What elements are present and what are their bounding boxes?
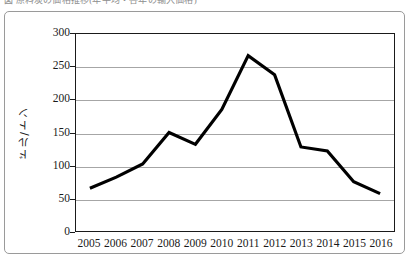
x-axis-tick-label: 2013 <box>290 238 313 250</box>
figure-frame: ドル/トン 050100150200250300 200520062007200… <box>4 11 405 254</box>
x-axis-tick-label: 2006 <box>104 238 127 250</box>
y-axis-tick-label: 300 <box>53 27 70 39</box>
y-axis-tick-labels: 050100150200250300 <box>31 33 70 232</box>
x-axis-tick-label: 2005 <box>78 238 101 250</box>
x-axis-tick-label: 2008 <box>157 238 180 250</box>
figure-caption: 図 原料炭の価格推移(年平均・各年の輸入価格) <box>4 0 197 6</box>
x-axis-tick-labels: 2005200620072008200920102011201220132014… <box>75 238 395 254</box>
figure-caption-strip: 図 原料炭の価格推移(年平均・各年の輸入価格) <box>0 0 410 9</box>
plot-area <box>75 33 395 232</box>
x-axis-tick-label: 2011 <box>237 238 260 250</box>
x-axis-tick-label: 2007 <box>131 238 154 250</box>
series-line-chart <box>76 34 394 231</box>
y-axis-tick-label: 50 <box>59 193 71 205</box>
x-axis-tick-label: 2009 <box>184 238 207 250</box>
x-axis-tick-label: 2014 <box>316 238 339 250</box>
y-axis-tick-label: 150 <box>53 127 70 139</box>
x-axis-tick-label: 2010 <box>210 238 233 250</box>
series-polyline <box>90 56 380 194</box>
x-axis-tick-label: 2016 <box>370 238 393 250</box>
x-axis-tick-label: 2012 <box>263 238 286 250</box>
y-axis-tick-label: 200 <box>53 94 70 106</box>
y-axis-tick-label: 250 <box>53 60 70 72</box>
x-axis-tick-label: 2015 <box>343 238 366 250</box>
y-axis-tick-mark <box>70 232 75 233</box>
y-axis-tick-label: 100 <box>53 160 70 172</box>
